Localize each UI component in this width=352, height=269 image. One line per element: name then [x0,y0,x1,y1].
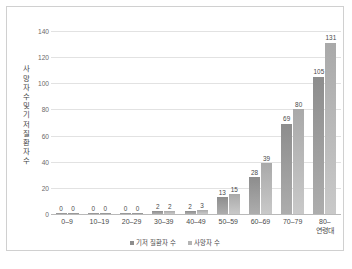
bar-value-label: 0 [66,205,80,212]
x-axis-line [51,214,341,215]
y-axis-tick-label: 80 [42,106,49,113]
bar-value-label: 28 [247,169,261,176]
bar-group: 000–9 [54,31,80,214]
bar-deaths [100,213,111,214]
bar-group: 131550–59 [215,31,241,214]
y-axis-tick-label: 60 [42,132,49,139]
y-axis-tick-label: 40 [42,158,49,165]
bar-underlying-disease [217,197,228,214]
bar-deaths [229,194,240,214]
legend-swatch-icon [188,241,192,245]
bar-deaths [293,109,304,214]
bar-underlying-disease [56,213,67,214]
bar-underlying-disease [185,211,196,214]
bar-underlying-disease [88,213,99,214]
bar-group: 2340–49 [183,31,209,214]
chart-legend: 기저 질환자 수사망자 수 [7,238,343,247]
bar-underlying-disease [152,211,163,214]
legend-item[interactable]: 사망자 수 [188,238,220,247]
bar-deaths [164,211,175,214]
chart-frame: 사 망 자 수 및 기 저 질 환 자 수 020406080100120140… [6,6,344,251]
bar-value-label: 0 [131,205,145,212]
bar-value-label: 15 [227,186,241,193]
y-axis-tick-label: 100 [38,80,49,87]
bar-group: 10513180– 연령대 [312,31,338,214]
bar-deaths [132,213,143,214]
plot-area: 000–90010–190020–292230–392340–49131550–… [51,31,341,214]
bar-underlying-disease [281,124,292,214]
bar-value-label: 80 [292,101,306,108]
x-axis-category-label: 80– 연령대 [305,218,345,235]
y-axis-tick-label: 140 [38,28,49,35]
bar-value-label: 3 [195,202,209,209]
bar-deaths [261,163,272,214]
y-axis-tick-labels: 020406080100120140 [29,31,49,214]
bar-value-label: 0 [98,205,112,212]
bar-value-label: 105 [312,68,326,75]
bar-value-label: 69 [280,115,294,122]
y-axis-tick-label: 120 [38,54,49,61]
bar-underlying-disease [249,177,260,214]
bar-value-label: 39 [259,155,273,162]
bar-deaths [325,43,336,214]
bar-underlying-disease [313,77,324,214]
bar-underlying-disease [120,213,131,214]
bar-group: 2230–39 [151,31,177,214]
legend-label: 기저 질환자 수 [136,238,176,247]
legend-item[interactable]: 기저 질환자 수 [130,238,176,247]
y-axis-tick-label: 0 [45,211,49,218]
bar-value-label: 2 [163,203,177,210]
legend-swatch-icon [130,241,134,245]
y-axis-tick-label: 20 [42,184,49,191]
legend-label: 사망자 수 [194,238,220,247]
bar-group: 0020–29 [119,31,145,214]
bar-deaths [68,213,79,214]
bar-value-label: 131 [324,34,338,41]
bar-deaths [197,210,208,214]
figure: 사 망 자 수 및 기 저 질 환 자 수 020406080100120140… [0,0,352,269]
bar-group: 283960–69 [247,31,273,214]
bar-group: 698070–79 [280,31,306,214]
bar-group: 0010–19 [86,31,112,214]
